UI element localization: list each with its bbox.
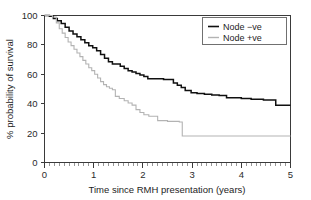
x-tick-label: 0 [42,169,47,180]
chart-canvas: 020406080100 012345 Time since RMH prese… [0,0,311,200]
x-tick-label: 4 [239,169,244,180]
survival-chart-figure: 020406080100 012345 Time since RMH prese… [0,0,311,200]
y-tick-label: 40 [27,98,38,109]
x-tick-label: 1 [91,169,96,180]
y-tick-label: 0 [32,157,37,168]
legend-label-node-negative: Node −ve [223,22,262,32]
x-tick-label: 5 [288,169,293,180]
y-axis-title: % probability of survival [4,39,15,139]
x-tick-label: 2 [140,169,145,180]
y-tick-label: 80 [27,39,38,50]
y-tick-label: 60 [27,69,38,80]
y-axis-ticks: 020406080100 [22,10,45,168]
x-axis-title: Time since RMH presentation (years) [89,184,246,195]
x-tick-label: 3 [189,169,194,180]
y-tick-label: 100 [22,10,38,21]
y-tick-label: 20 [27,128,38,139]
legend-label-node-positive: Node +ve [223,33,262,43]
legend: Node −ve Node +ve [203,18,287,45]
